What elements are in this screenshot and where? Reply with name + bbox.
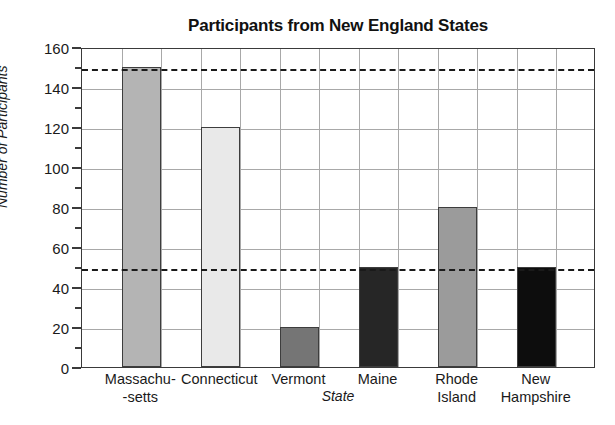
y-tick-major	[72, 127, 81, 129]
x-category-label-line: Connecticut	[181, 371, 258, 387]
y-tick-label: 160	[27, 40, 69, 57]
y-tick-label: 80	[27, 200, 69, 217]
reference-line-50	[82, 269, 594, 271]
y-tick-minor	[75, 107, 81, 109]
y-tick-label: 40	[27, 280, 69, 297]
y-tick-major	[72, 207, 81, 209]
y-tick-minor	[75, 307, 81, 309]
x-axis-title: State	[81, 388, 595, 404]
x-category-label-line: Vermont	[271, 371, 325, 387]
y-tick-label: 100	[27, 160, 69, 177]
x-category-label: Vermont	[257, 370, 340, 388]
y-tick-minor	[75, 347, 81, 349]
y-axis-title: Number of Participants	[0, 66, 10, 208]
y-tick-label: 140	[27, 80, 69, 97]
x-category-label-line: New	[521, 371, 550, 387]
reference-line-150	[82, 69, 594, 71]
chart-title: Participants from New England States	[81, 16, 595, 36]
bar-vermont[interactable]	[280, 327, 320, 367]
y-tick-major	[72, 47, 81, 49]
y-tick-minor	[75, 147, 81, 149]
bar-new-hampshire[interactable]	[517, 267, 557, 367]
y-tick-major	[72, 327, 81, 329]
bar-connecticut[interactable]	[201, 127, 241, 367]
y-tick-minor	[75, 267, 81, 269]
y-tick-label: 20	[27, 320, 69, 337]
y-tick-major	[72, 167, 81, 169]
y-tick-minor	[75, 67, 81, 69]
bar-rhode-island[interactable]	[438, 207, 478, 367]
x-category-label: Maine	[336, 370, 419, 388]
x-category-label-line: Maine	[358, 371, 398, 387]
y-tick-label: 60	[27, 240, 69, 257]
bar-maine[interactable]	[359, 267, 399, 367]
y-tick-major	[72, 247, 81, 249]
bar-massachu-setts[interactable]	[122, 67, 162, 367]
y-tick-label: 120	[27, 120, 69, 137]
y-tick-minor	[75, 227, 81, 229]
y-tick-major	[72, 87, 81, 89]
y-tick-major	[72, 287, 81, 289]
x-category-label: Connecticut	[178, 370, 261, 388]
y-tick-label: 0	[27, 360, 69, 377]
y-tick-major	[72, 367, 81, 369]
x-category-label-line: Massachu-	[105, 371, 176, 387]
y-tick-minor	[75, 187, 81, 189]
plot-area	[81, 48, 595, 368]
bar-chart: Participants from New England States 020…	[0, 0, 615, 425]
